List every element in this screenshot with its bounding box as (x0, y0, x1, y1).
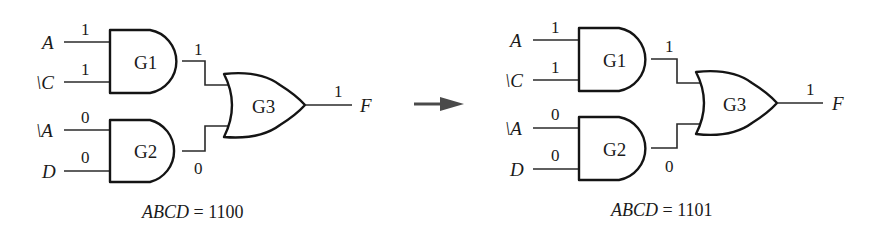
wire-g1-to-g3 (182, 61, 229, 85)
gate-label-g3: G3 (252, 96, 275, 117)
input-value-not-c: 1 (81, 60, 90, 79)
caption-value: 1100 (208, 202, 243, 222)
g1-output-value: 1 (194, 40, 203, 59)
input-value-not-a: 0 (551, 105, 560, 124)
output-label-f: F (359, 95, 372, 116)
caption-var: ABCD (610, 200, 658, 220)
wire-g2-to-g3 (182, 126, 229, 151)
input-value-not-c: 1 (551, 58, 560, 77)
g2-output-value: 0 (194, 159, 203, 178)
input-label-d: D (509, 159, 524, 180)
wire-g1-to-g3 (651, 59, 701, 83)
input-value-a: 1 (81, 20, 90, 39)
input-label-d: D (41, 161, 56, 182)
input-label-not-c: \C (36, 72, 54, 93)
circuit-panel-left: A \C \A D 1 1 0 0 G1 G2 G3 1 0 1 F ABCD … (36, 20, 372, 222)
input-label-a: A (40, 32, 54, 53)
g2-output-value: 0 (665, 157, 674, 176)
caption-left: ABCD = 1100 (141, 202, 244, 222)
caption-var: ABCD (141, 202, 189, 222)
input-label-not-a: \A (36, 120, 53, 141)
output-label-f: F (831, 93, 844, 114)
circuit-panel-right: A \C \A D 1 1 0 0 G1 G2 G3 1 0 1 F ABCD … (505, 18, 844, 220)
input-label-not-c: \C (505, 70, 523, 91)
output-value-f: 1 (806, 80, 815, 99)
logic-circuit-diagram: A \C \A D 1 1 0 0 G1 G2 G3 1 0 1 F ABCD … (0, 0, 880, 231)
input-value-not-a: 0 (81, 108, 90, 127)
gate-label-g1: G1 (134, 52, 157, 73)
input-value-a: 1 (551, 18, 560, 37)
gate-label-g1: G1 (603, 50, 626, 71)
gate-label-g2: G2 (134, 141, 157, 162)
input-value-d: 0 (81, 148, 90, 167)
caption-eq: = (189, 202, 208, 222)
input-label-a: A (508, 30, 522, 51)
caption-right: ABCD = 1101 (610, 200, 713, 220)
input-value-d: 0 (551, 146, 560, 165)
caption-value: 1101 (677, 200, 712, 220)
wire-g2-to-g3 (651, 124, 701, 148)
transition-arrow-icon (414, 97, 464, 111)
g1-output-value: 1 (665, 37, 674, 56)
gate-label-g3: G3 (723, 94, 746, 115)
caption-eq: = (658, 200, 677, 220)
gate-label-g2: G2 (603, 139, 626, 160)
output-value-f: 1 (334, 82, 343, 101)
input-label-not-a: \A (505, 118, 522, 139)
